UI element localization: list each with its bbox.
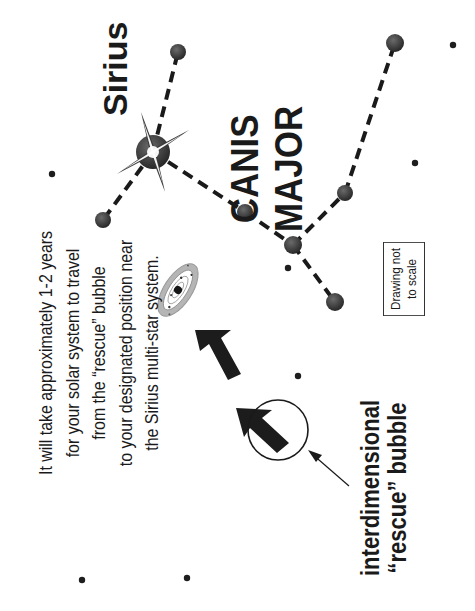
caption-line: the Sirius multi-star system. [139, 231, 166, 475]
bubble-label-line-1: interdimensional [357, 400, 384, 576]
constellation-star [95, 212, 111, 228]
scale-note: Drawing not to scale [383, 242, 425, 316]
constellation-line [345, 43, 395, 193]
bubble-label-line-2: “rescue” bubble [384, 400, 411, 576]
caption-line: from the “rescue” bubble [86, 231, 113, 475]
travel-arrow-icon [195, 330, 241, 380]
constellation-label: CANIS MAJOR [223, 106, 311, 232]
background-star-dot [450, 42, 456, 48]
constellation-star [170, 44, 186, 60]
pointer-arrow-icon [308, 450, 349, 486]
constellation-star [386, 34, 404, 52]
constellation-line-2: MAJOR [267, 106, 311, 232]
note-line-1: Drawing not [388, 248, 404, 310]
caption-line: to your designated position near [113, 231, 140, 475]
travel-arrow-icon [236, 408, 289, 453]
sirius-sparkle-icon [117, 112, 189, 192]
rescue-bubble-label: interdimensional “rescue” bubble [357, 400, 411, 576]
background-star-dot [79, 577, 85, 583]
caption-line: It will take approximately 1-2 years [33, 231, 60, 475]
constellation-line [293, 245, 335, 302]
constellation-star [326, 293, 344, 311]
background-star-dot [49, 171, 55, 177]
background-star-dot [285, 265, 291, 271]
constellation-star [337, 185, 353, 201]
travel-caption: It will take approximately 1-2 years for… [33, 231, 166, 475]
constellation-line-1: CANIS [223, 106, 267, 232]
background-star-dot [412, 160, 418, 166]
sirius-label: Sirius [96, 22, 135, 116]
constellation-star [284, 236, 302, 254]
note-line-2: to scale [404, 248, 420, 310]
background-star-dot [295, 373, 301, 379]
caption-line: for your solar system to travel [60, 231, 87, 475]
background-star-dot [184, 575, 190, 581]
